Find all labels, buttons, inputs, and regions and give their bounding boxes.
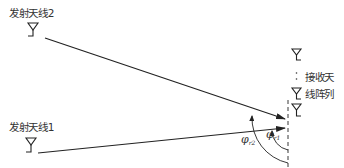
antenna-icon [292,104,301,116]
antenna-icon [28,23,38,36]
diagram-canvas: 发射天线2 发射天线1 接收天 线阵列 φr2 φr1 [0,0,344,168]
angle-label-phi-r1: φr1 [266,129,280,144]
diagram-graphics [0,0,344,168]
tx1-label: 发射天线1 [9,121,54,133]
antenna-icon [292,88,301,99]
antenna-icon [292,49,301,60]
rx-array-label-line2: 线阵列 [305,88,334,100]
rx-array-label-line1: 接收天 [305,71,334,83]
ellipsis-dots [296,72,298,80]
antenna-icon [26,138,36,152]
signal-path-tx2 [45,38,285,119]
tx2-label: 发射天线2 [9,7,54,19]
angle-label-phi-r2: φr2 [241,134,255,149]
